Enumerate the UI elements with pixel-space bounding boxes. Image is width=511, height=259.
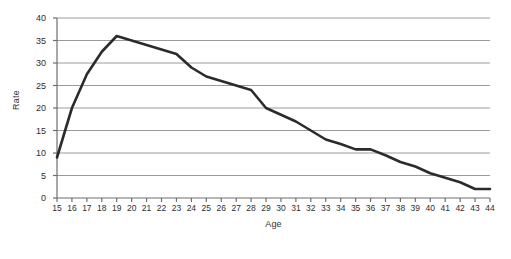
gridlines-group [57,18,490,176]
y-tick-label: 0 [4,194,46,203]
y-tick-label: 35 [4,36,46,45]
y-tick-label: 30 [4,59,46,68]
data-series-line [57,36,490,189]
y-tick-label: 15 [4,126,46,135]
x-axis-tick-labels: 1516171819202122232425262728293031323334… [0,203,511,217]
y-tick-label: 25 [4,81,46,90]
x-tick-label: 44 [480,203,500,213]
x-axis-title: Age [57,219,490,229]
y-tick-label: 10 [4,149,46,158]
x-tickmarks-group [57,198,490,202]
y-tick-label: 20 [4,104,46,113]
y-tick-label: 5 [4,171,46,180]
y-tick-label: 40 [4,14,46,23]
y-axis-tick-labels: 0510152025303540 [0,0,56,259]
figure-container: Rate Age 0510152025303540 15161718192021… [0,0,511,259]
